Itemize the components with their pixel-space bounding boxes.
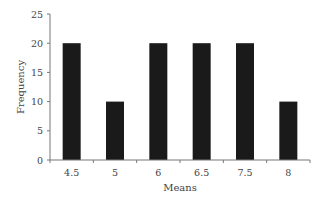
- y-axis: 0510152025: [31, 9, 50, 166]
- bar-6.5: [193, 43, 211, 160]
- y-tick-label: 15: [31, 67, 43, 78]
- y-tick-label: 5: [37, 125, 43, 136]
- x-axis: 4.5566.57.58: [50, 160, 310, 178]
- bar-4.5: [63, 43, 81, 160]
- y-axis-title: Frequency: [15, 60, 26, 114]
- bars: [63, 43, 298, 160]
- x-tick-label: 6.5: [194, 167, 209, 178]
- bar-8: [279, 102, 297, 160]
- x-tick-label: 5: [112, 167, 118, 178]
- x-tick-label: 8: [285, 167, 291, 178]
- y-tick-label: 10: [31, 96, 43, 107]
- bar-chart: 0510152025 4.5566.57.58 Frequency Means: [0, 0, 326, 200]
- x-tick-label: 7.5: [237, 167, 252, 178]
- y-tick-label: 0: [37, 155, 43, 166]
- x-tick-label: 4.5: [64, 167, 79, 178]
- bar-7.5: [236, 43, 254, 160]
- bar-5: [106, 102, 124, 160]
- y-tick-label: 25: [31, 9, 43, 20]
- x-tick-label: 6: [155, 167, 161, 178]
- y-tick-label: 20: [31, 38, 43, 49]
- x-axis-title: Means: [163, 182, 197, 193]
- bar-6: [149, 43, 167, 160]
